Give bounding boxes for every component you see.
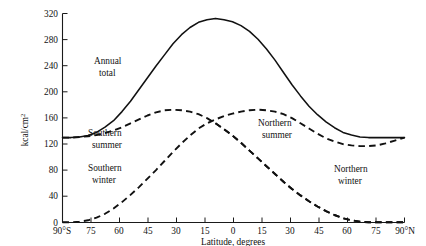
y-tick-label: 240 [44, 61, 58, 71]
annotation-northern-winter-line2: winter [338, 176, 363, 186]
x-tick-label: 30 [171, 226, 181, 236]
x-tick-label: 75 [86, 226, 96, 236]
y-tick-label: 320 [44, 9, 58, 19]
annotation-southern-summer-line1: Southern [88, 128, 122, 138]
x-tick-marks [63, 218, 405, 223]
chart-figure: 320 280 240 200 160 120 80 40 0 [0, 0, 426, 246]
y-axis-title-superscript: 2 [19, 114, 26, 117]
y-axis-title: kcal/cm2 [19, 114, 30, 147]
x-tick-label: 30 [285, 226, 295, 236]
annotation-southern-winter-line1: Southern [88, 163, 122, 173]
x-tick-label: 90°S [53, 226, 71, 236]
x-tick-label: 0 [231, 226, 236, 236]
svg-text:kcal/cm2: kcal/cm2 [19, 114, 30, 147]
y-axis-title-text: kcal/cm [20, 116, 30, 146]
x-tick-label: 75 [371, 226, 381, 236]
x-tick-label: 15 [257, 226, 267, 236]
annotation-northern-summer-line2: summer [262, 130, 293, 140]
annotation-annual-total-line2: total [99, 68, 116, 78]
x-tick-label: 45 [314, 226, 324, 236]
axis-group [63, 14, 405, 223]
chart-svg: 320 280 240 200 160 120 80 40 0 [0, 0, 426, 246]
annotation-northern-summer-line1: Northern [258, 118, 292, 128]
y-tick-label: 40 [49, 191, 59, 201]
series-annual-total-curve [63, 18, 405, 137]
annotation-southern-winter-line2: winter [92, 175, 117, 185]
x-tick-label: 45 [143, 226, 153, 236]
x-axis-title: Latitude, degrees [201, 237, 265, 246]
y-tick-label: 280 [44, 35, 58, 45]
y-tick-label: 80 [49, 165, 59, 175]
x-tick-label: 90°N [395, 226, 415, 236]
y-tick-labels: 320 280 240 200 160 120 80 40 0 [44, 9, 58, 228]
x-tick-labels: 90°S 75 60 45 30 15 0 15 30 45 60 75 90°… [53, 226, 415, 236]
y-tick-label: 120 [44, 139, 58, 149]
y-tick-label: 160 [44, 113, 58, 123]
x-tick-label: 60 [342, 226, 352, 236]
annotation-northern-winter-line1: Northern [334, 164, 368, 174]
annotation-annual-total-line1: Annual [94, 56, 122, 66]
x-tick-label: 15 [200, 226, 210, 236]
x-tick-label: 60 [114, 226, 124, 236]
y-tick-marks [63, 14, 68, 223]
y-tick-label: 200 [44, 87, 58, 97]
annotation-southern-summer-line2: summer [92, 140, 123, 150]
curves-group [63, 18, 405, 222]
